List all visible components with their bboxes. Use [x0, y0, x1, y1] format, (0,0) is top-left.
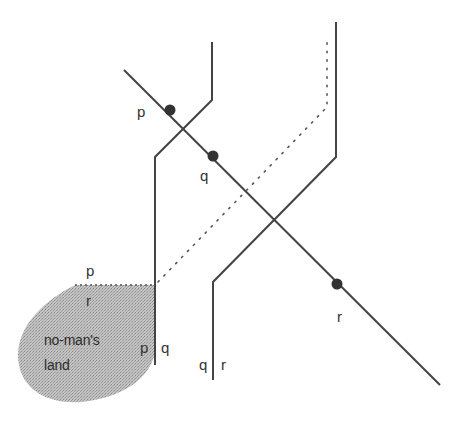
label-dot-q: q: [200, 168, 208, 183]
region-label-line1: no-man's: [44, 331, 100, 350]
region-label-line2: land: [44, 356, 100, 375]
region-label: no-man's land: [44, 331, 100, 375]
label-left-line-q: q: [161, 340, 169, 355]
right-bent-line: [213, 22, 336, 380]
label-region-r: r: [86, 293, 91, 308]
label-left-line-p: p: [140, 340, 148, 355]
label-dot-p: p: [137, 104, 145, 119]
label-dot-r: r: [337, 309, 342, 324]
point-q-dot: [208, 151, 219, 162]
label-right-line-q: q: [199, 357, 207, 372]
point-r-dot: [332, 279, 343, 290]
trajectory-line: [124, 70, 440, 385]
point-p-dot: [165, 105, 176, 116]
label-top-p: p: [86, 263, 94, 278]
left-bent-line: [155, 42, 212, 365]
label-right-line-r: r: [221, 357, 226, 372]
